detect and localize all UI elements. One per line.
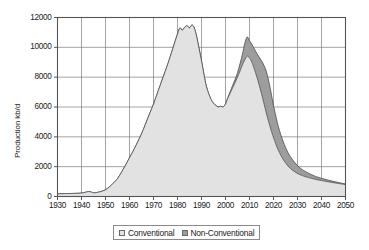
chart-legend: ConventionalNon-Conventional [113,225,260,240]
production-area-chart: Production kb/d 020004000600080001000012… [0,0,369,250]
legend-item-label: Conventional [128,228,175,238]
legend-item-conventional[interactable]: Conventional [119,228,175,238]
legend-item-non-conventional[interactable]: Non-Conventional [182,228,255,238]
legend-swatch-icon [119,230,125,236]
legend-swatch-icon [182,230,188,236]
plot-area [0,0,369,250]
legend-item-label: Non-Conventional [191,228,255,238]
